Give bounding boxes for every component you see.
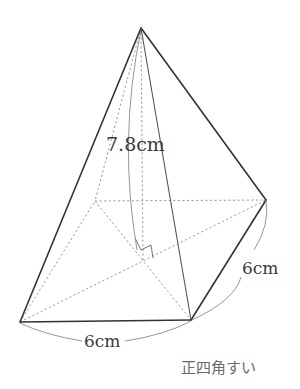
edge-front-left-front-right — [20, 320, 191, 322]
edge-apex-front-left — [20, 28, 141, 322]
figure-caption: 正四角すい — [181, 359, 256, 377]
edge-apex-back-left — [95, 28, 141, 201]
edge-apex-back-right — [141, 28, 266, 200]
base-front-label: 6cm — [84, 331, 120, 351]
edge-back-left-back-right — [95, 200, 266, 201]
edge-apex-front-right — [141, 28, 191, 320]
base-side-arc — [192, 277, 241, 320]
square-pyramid-diagram: 7.8cm 6cm 6cm 正四角すい — [0, 0, 300, 389]
hidden-edges — [20, 28, 266, 322]
height-label: 7.8cm — [106, 133, 165, 155]
diagonal-back-left-front-right — [95, 201, 191, 320]
base-side-label: 6cm — [242, 258, 278, 278]
base-front-arc — [20, 323, 82, 341]
visible-edges — [20, 28, 266, 322]
base-front-arc-right — [125, 321, 191, 341]
right-angle-mark — [135, 238, 153, 258]
